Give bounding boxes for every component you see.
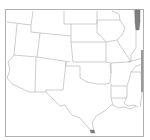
- highlight-illinois-region: [135, 10, 140, 30]
- highlight-texas-tip: [90, 130, 95, 133]
- us-states-map: [0, 0, 150, 140]
- highlight-east-strip: [141, 50, 143, 92]
- map-background: [0, 0, 150, 140]
